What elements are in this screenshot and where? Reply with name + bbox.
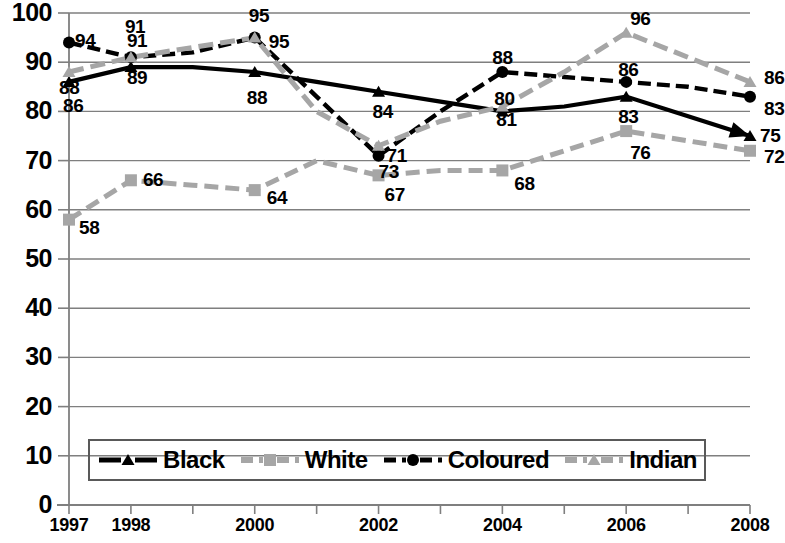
legend-label: Coloured	[448, 448, 549, 472]
data-label-coloured: 94	[75, 31, 95, 50]
x-tick-label: 2000	[220, 516, 290, 534]
data-label-indian: 81	[496, 110, 516, 129]
gridlines	[69, 13, 750, 505]
data-label-indian: 96	[630, 9, 650, 28]
legend-swatch-triangle-icon	[563, 450, 625, 470]
legend-item-white: White	[237, 448, 370, 472]
data-label-white: 68	[514, 174, 534, 193]
data-point-white	[620, 125, 632, 137]
data-label-indian: 73	[379, 162, 399, 181]
x-tick-label: 2004	[467, 516, 537, 534]
legend-marker-circle-icon	[407, 454, 419, 466]
series-line-black	[69, 67, 750, 136]
x-axis: 1997199820002002200420062008	[0, 516, 766, 543]
x-tick-label: 2008	[715, 516, 785, 534]
data-label-indian: 91	[125, 17, 145, 36]
x-tick-label: 1998	[96, 516, 166, 534]
data-label-white: 58	[79, 218, 99, 237]
data-point-white	[744, 145, 756, 157]
data-label-black: 89	[127, 68, 147, 87]
data-label-coloured: 83	[764, 99, 784, 118]
data-label-black: 83	[618, 107, 638, 126]
series-arrowhead-black	[729, 122, 751, 137]
data-point-coloured	[744, 91, 756, 103]
data-label-indian: 88	[59, 78, 79, 97]
legend-marker-triangle-icon	[588, 454, 601, 465]
data-label-black: 86	[63, 96, 83, 115]
data-point-coloured	[373, 150, 385, 162]
data-label-indian: 95	[249, 6, 269, 25]
data-label-white: 66	[143, 170, 163, 189]
data-label-white: 76	[630, 143, 650, 162]
legend-swatch-square-icon	[239, 450, 301, 470]
legend-item-coloured: Coloured	[380, 448, 551, 472]
legend-label: White	[305, 448, 368, 472]
series-lines	[69, 33, 750, 220]
data-label-white: 72	[764, 147, 784, 166]
x-axis-ticks	[69, 505, 750, 514]
legend-marker-square-icon	[264, 454, 276, 466]
data-label-white: 64	[267, 188, 287, 207]
data-label-white: 67	[385, 185, 405, 204]
legend-label: Indian	[629, 448, 697, 472]
data-label-black: 80	[494, 89, 514, 108]
data-label-coloured: 88	[492, 48, 512, 67]
data-label-black: 75	[760, 126, 780, 145]
x-tick-label: 1997	[34, 516, 104, 534]
x-tick-label: 2002	[344, 516, 414, 534]
data-point-white	[496, 164, 508, 176]
legend-item-indian: Indian	[561, 448, 699, 472]
series-line-indian	[69, 33, 750, 146]
data-label-coloured: 95	[269, 32, 289, 51]
data-label-black: 88	[247, 88, 267, 107]
legend-swatch-triangle-icon	[97, 450, 159, 470]
x-tick-label: 2006	[591, 516, 661, 534]
data-label-black: 84	[373, 102, 393, 121]
legend-marker-triangle-icon	[122, 454, 135, 465]
data-label-coloured: 86	[618, 60, 638, 79]
data-label-indian: 86	[764, 68, 784, 87]
legend-item-black: Black	[95, 448, 227, 472]
data-point-white	[63, 214, 75, 226]
legend-swatch-circle-icon	[382, 450, 444, 470]
chart-legend: BlackWhiteColouredIndian	[88, 439, 706, 481]
data-point-white	[249, 184, 261, 196]
data-point-white	[125, 174, 137, 186]
legend-label: Black	[163, 448, 225, 472]
data-point-coloured	[63, 37, 75, 49]
